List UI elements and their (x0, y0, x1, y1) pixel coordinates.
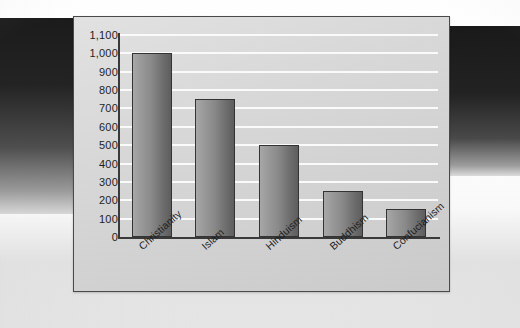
chart-panel: 1,1001,0009008007006005004003002001000 C… (73, 16, 450, 292)
y-axis-tick-label: 400 (76, 159, 118, 170)
y-axis-tick-label: 1,100 (76, 30, 118, 41)
chart-screenshot: 1,1001,0009008007006005004003002001000 C… (0, 0, 520, 328)
y-axis-tick-label: 200 (76, 195, 118, 206)
plot-area (120, 35, 438, 237)
bar (132, 53, 172, 237)
y-axis-tick-label: 500 (76, 140, 118, 151)
bar-series (120, 35, 438, 237)
y-axis-tick-label: 900 (76, 67, 118, 78)
x-axis-category-labels: ChristianityIslamHinduismBuddhismConfuci… (120, 239, 438, 293)
y-axis-tick-label: 1,000 (76, 48, 118, 59)
y-axis-tick-label: 300 (76, 177, 118, 188)
y-axis-tick-labels: 1,1001,0009008007006005004003002001000 (74, 35, 118, 237)
y-axis-tick-label: 100 (76, 214, 118, 225)
bar (195, 99, 235, 237)
y-axis-tick-label: 600 (76, 122, 118, 133)
y-axis-tick-label: 800 (76, 85, 118, 96)
y-axis-tick-label: 700 (76, 103, 118, 114)
y-axis-tick-label: 0 (76, 232, 118, 243)
